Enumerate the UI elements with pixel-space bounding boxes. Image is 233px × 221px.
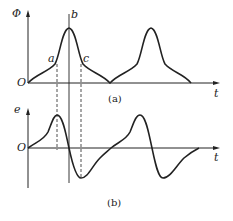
point-a-label: a [48, 53, 55, 64]
top-y-arrow-icon [26, 10, 30, 17]
bottom-caption: (b) [107, 198, 121, 208]
top-x-arrow-icon [213, 81, 220, 85]
bottom-y-arrow-icon [26, 108, 30, 115]
top-y-axis-label: Φ [12, 8, 21, 19]
bottom-x-arrow-icon [213, 146, 220, 150]
top-caption: (a) [108, 94, 122, 104]
top-origin-label: O [17, 77, 26, 88]
emf-curve [28, 115, 199, 178]
point-b-label: b [71, 9, 78, 20]
flux-emf-diagram: Φ b a c O t (a) e O t (b) [0, 0, 233, 221]
point-c-label: c [83, 53, 89, 64]
top-x-axis-label: t [214, 88, 218, 99]
bottom-x-axis-label: t [214, 152, 218, 163]
bottom-y-axis-label: e [14, 104, 21, 115]
diagram-canvas [0, 0, 233, 221]
bottom-origin-label: O [17, 142, 26, 153]
